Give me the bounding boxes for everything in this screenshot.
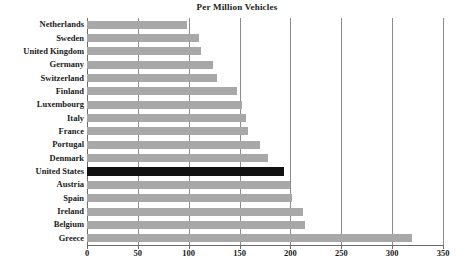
- category-label-italy: Italy: [67, 113, 84, 123]
- bar-row: [87, 98, 443, 111]
- bar-row: [87, 152, 443, 165]
- bar-austria: [87, 181, 290, 189]
- bar-row: [87, 85, 443, 98]
- category-label-greece: Greece: [59, 233, 84, 243]
- bar-spain: [87, 194, 292, 202]
- bar-france: [87, 127, 248, 135]
- category-label-united-kingdom: United Kingdom: [23, 46, 84, 56]
- tick-label-50: 50: [118, 248, 158, 259]
- bar-row: [87, 138, 443, 151]
- bar-netherlands: [87, 21, 187, 29]
- bar-row: [87, 192, 443, 205]
- plot-area: [87, 18, 443, 245]
- bar-belgium: [87, 221, 305, 229]
- category-label-luxembourg: Luxembourg: [37, 99, 84, 109]
- bar-row: [87, 58, 443, 71]
- bar-italy: [87, 114, 246, 122]
- bar-portugal: [87, 141, 260, 149]
- category-label-portugal: Portugal: [52, 139, 84, 149]
- bar-luxembourg: [87, 101, 242, 109]
- bar-united-kingdom: [87, 47, 201, 55]
- bar-finland: [87, 87, 237, 95]
- bar-ireland: [87, 208, 303, 216]
- bar-row: [87, 45, 443, 58]
- bar-germany: [87, 61, 213, 69]
- category-label-belgium: Belgium: [54, 219, 84, 229]
- category-label-denmark: Denmark: [50, 153, 84, 163]
- bar-row: [87, 218, 443, 231]
- bar-row: [87, 205, 443, 218]
- category-label-germany: Germany: [50, 59, 84, 69]
- tick-label-250: 250: [321, 248, 361, 259]
- x-axis-line: [87, 245, 444, 246]
- category-label-sweden: Sweden: [56, 33, 84, 43]
- category-label-united-states: United States: [36, 166, 84, 176]
- bar-denmark: [87, 154, 268, 162]
- tick-label-150: 150: [220, 248, 260, 259]
- tick-label-0: 0: [67, 248, 107, 259]
- bar-row: [87, 165, 443, 178]
- category-label-france: France: [59, 126, 85, 136]
- tick-label-350: 350: [423, 248, 463, 259]
- category-label-switzerland: Switzerland: [41, 73, 84, 83]
- category-label-ireland: Ireland: [57, 206, 84, 216]
- bar-row: [87, 71, 443, 84]
- bar-row: [87, 31, 443, 44]
- bar-row: [87, 178, 443, 191]
- bar-row: [87, 18, 443, 31]
- tick-label-300: 300: [372, 248, 412, 259]
- bar-switzerland: [87, 74, 217, 82]
- bar-row: [87, 111, 443, 124]
- bar-row: [87, 125, 443, 138]
- bar-row: [87, 232, 443, 245]
- category-label-austria: Austria: [57, 179, 84, 189]
- bar-united-states: [87, 167, 284, 176]
- tick-label-200: 200: [270, 248, 310, 259]
- bar-greece: [87, 234, 412, 242]
- category-label-netherlands: Netherlands: [40, 19, 84, 29]
- category-label-spain: Spain: [63, 193, 84, 203]
- bar-sweden: [87, 34, 199, 42]
- category-label-finland: Finland: [56, 86, 84, 96]
- gridline-350: [443, 18, 444, 245]
- chart-title: Per Million Vehicles: [0, 2, 474, 12]
- bar-chart: Per Million Vehicles NetherlandsSwedenUn…: [0, 0, 474, 272]
- tick-label-100: 100: [169, 248, 209, 259]
